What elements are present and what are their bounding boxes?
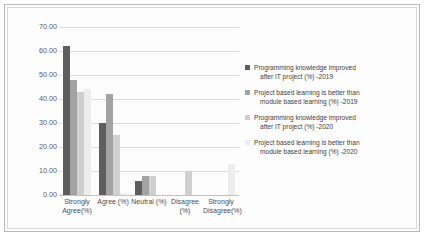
x-axis-labels: Strongly Agree(%)Agree (%)Neutral (%)Dis… xyxy=(59,197,239,227)
x-axis-tick: Agree (%) xyxy=(95,197,131,227)
y-axis-tick: 30.00 xyxy=(19,119,57,127)
legend-label: Project based learning is better thanmod… xyxy=(254,88,360,106)
legend-label-line: Project based learning is better than xyxy=(254,138,360,147)
legend-item[interactable]: Programming knowledge improvedafter IT p… xyxy=(245,63,417,81)
bar xyxy=(70,80,77,195)
legend-label-line: module based learning (%) -2020 xyxy=(260,147,360,156)
y-axis-tick: 50.00 xyxy=(19,71,57,79)
legend-label-line: after IT project (%) -2020 xyxy=(260,122,356,131)
bar xyxy=(63,46,70,195)
legend-label-line: after IT project (%) -2019 xyxy=(260,72,356,81)
bar xyxy=(185,171,192,195)
bar-group xyxy=(63,27,91,195)
x-axis-tick: Neutral (%) xyxy=(131,197,167,227)
chart-legend: Programming knowledge improvedafter IT p… xyxy=(245,63,417,163)
y-axis-tick: 20.00 xyxy=(19,143,57,151)
x-axis-tick: Strongly Agree(%) xyxy=(59,197,95,227)
bar xyxy=(77,92,84,195)
chart-frame: 70.0060.0050.0040.0030.0020.0010.000.00 … xyxy=(4,4,420,232)
y-axis-tick: 60.00 xyxy=(19,47,57,55)
bar-groups xyxy=(59,27,239,195)
legend-item[interactable]: Project based learning is better thanmod… xyxy=(245,88,417,106)
bar xyxy=(113,135,120,195)
y-axis-tick: 40.00 xyxy=(19,95,57,103)
bar xyxy=(142,176,149,195)
x-axis-line xyxy=(59,195,239,196)
bar xyxy=(228,164,235,195)
bar xyxy=(135,181,142,195)
y-axis-tick: 0.00 xyxy=(19,191,57,199)
legend-label-line: Project based learning is better than xyxy=(254,88,360,97)
bar xyxy=(149,176,156,195)
legend-swatch-icon xyxy=(245,115,250,120)
y-axis-tick: 10.00 xyxy=(19,167,57,175)
legend-label-line: Programming knowledge improved xyxy=(254,113,356,122)
bar-group xyxy=(135,27,163,195)
bar xyxy=(120,193,127,195)
plot-area xyxy=(59,27,239,195)
legend-label-line: Programming knowledge improved xyxy=(254,63,356,72)
legend-item[interactable]: Project based learning is better thanmod… xyxy=(245,138,417,156)
legend-label-line: module based learning (%) -2019 xyxy=(260,97,360,106)
legend-swatch-icon xyxy=(245,140,250,145)
x-axis-tick: Disagree (%) xyxy=(167,197,203,227)
y-axis-tick: 70.00 xyxy=(19,23,57,31)
legend-swatch-icon xyxy=(245,65,250,70)
legend-item[interactable]: Programming knowledge improvedafter IT p… xyxy=(245,113,417,131)
bar xyxy=(99,123,106,195)
bar-group xyxy=(171,27,199,195)
bar xyxy=(106,94,113,195)
legend-swatch-icon xyxy=(245,90,250,95)
x-axis-tick: Strongly Disagree(%) xyxy=(203,197,239,227)
bar-group xyxy=(99,27,127,195)
bar-group xyxy=(207,27,235,195)
legend-label: Project based learning is better thanmod… xyxy=(254,138,360,156)
y-axis-labels: 70.0060.0050.0040.0030.0020.0010.000.00 xyxy=(19,19,57,203)
legend-label: Programming knowledge improvedafter IT p… xyxy=(254,113,356,131)
bar xyxy=(84,89,91,195)
legend-label: Programming knowledge improvedafter IT p… xyxy=(254,63,356,81)
